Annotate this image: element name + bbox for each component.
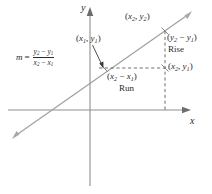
line-arrowhead-start	[12, 131, 20, 139]
point-markers	[101, 28, 169, 72]
label-point-x1-y1: (x1, y1)	[76, 34, 101, 43]
slope-fraction: y2 − y1 x2 − x1	[33, 48, 55, 67]
point1-pointer-arrow	[93, 45, 104, 69]
y-axis-arrowhead	[87, 7, 94, 16]
line-arrowhead-end	[185, 11, 193, 19]
y-axis-label: y	[81, 3, 85, 13]
label-point-x2-y2: (x2, y2)	[125, 12, 150, 21]
label-run-difference: (x2 − x1)	[107, 72, 137, 81]
slope-formula: m = y2 − y1 x2 − x1	[16, 48, 54, 67]
slope-diagram: y x m = y2 − y1 x2 − x1 (x1, y1) (x2, y2…	[0, 0, 212, 194]
label-run: Run	[119, 84, 134, 93]
slope-denominator: x2 − x1	[33, 57, 55, 67]
slope-numerator: y2 − y1	[33, 48, 55, 57]
label-point-x2-y1: (x2, y1)	[168, 62, 193, 71]
plotted-line	[12, 11, 192, 139]
label-rise: Rise	[168, 45, 184, 54]
slope-equals: =	[25, 53, 30, 62]
x-axis-label: x	[190, 116, 194, 126]
label-rise-difference: (y2 − y1)	[167, 33, 197, 42]
x-axis-arrowhead	[182, 107, 191, 114]
diagram-canvas	[0, 0, 212, 194]
x-axis	[8, 107, 191, 114]
slope-variable: m	[16, 53, 23, 62]
